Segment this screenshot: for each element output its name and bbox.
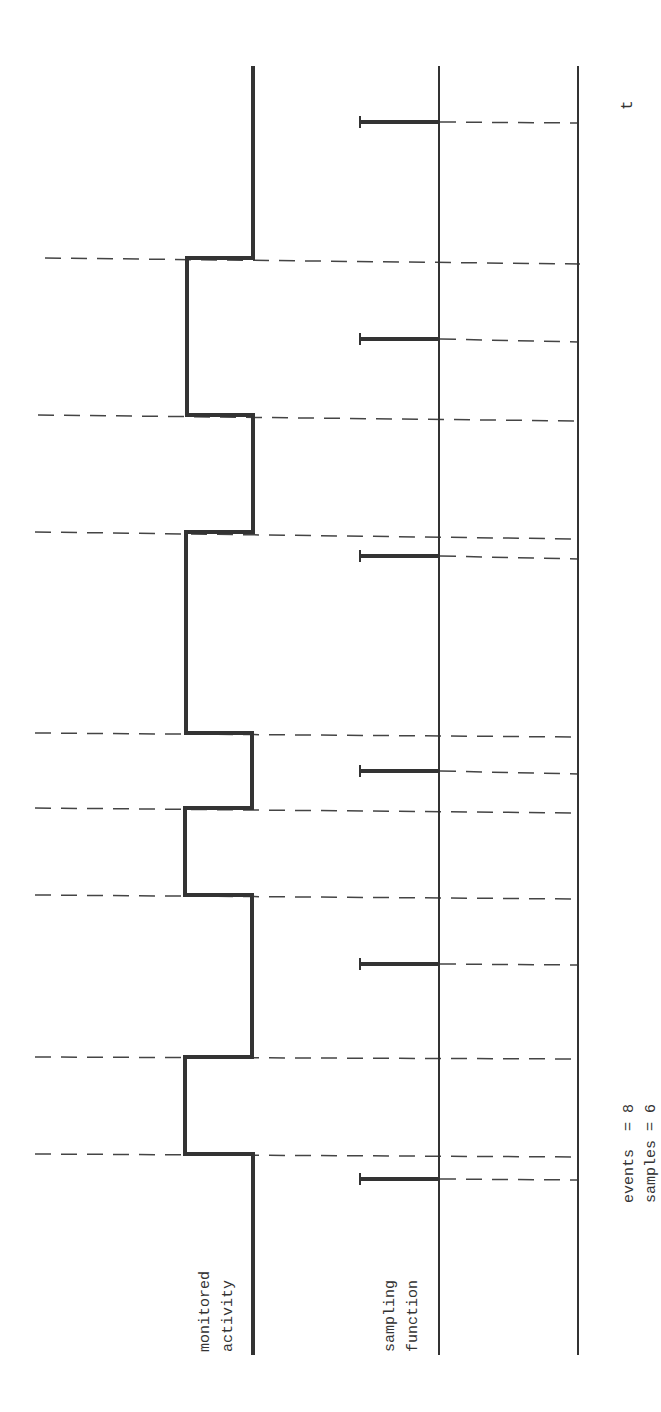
time-axis-label: t bbox=[619, 100, 637, 110]
sampling-diagram: monitored activity sampling function t e… bbox=[0, 0, 661, 1412]
sample-impulses bbox=[360, 122, 439, 1179]
events-count: events = 8 bbox=[621, 1104, 638, 1203]
sampling-function-label-line1: sampling bbox=[382, 1280, 399, 1352]
monitored-activity-waveform bbox=[185, 66, 253, 1355]
event-projection-lines bbox=[35, 258, 580, 1157]
monitored-activity-label-line2: activity bbox=[220, 1280, 237, 1352]
sample-projection-lines bbox=[440, 122, 578, 1180]
samples-count: samples = 6 bbox=[643, 1104, 660, 1203]
sampling-function-label-line2: function bbox=[405, 1280, 422, 1352]
monitored-activity-label-line1: monitored bbox=[197, 1271, 214, 1352]
